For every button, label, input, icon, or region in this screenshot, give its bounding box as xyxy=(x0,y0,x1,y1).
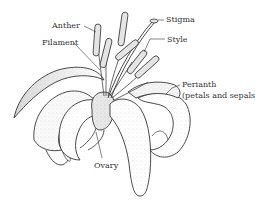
petal-center-drooping xyxy=(110,99,151,196)
flower-drawing xyxy=(0,0,255,220)
label-filament: Filament xyxy=(42,38,78,47)
label-anther: Anther xyxy=(52,21,80,30)
anther-leader xyxy=(84,26,96,32)
stigma xyxy=(150,19,158,23)
lily-flower-diagram: Anther Filament Stigma Style Perianth (p… xyxy=(0,0,255,220)
label-perianth: Perianth xyxy=(182,80,216,89)
ovary-leader xyxy=(96,132,102,158)
label-perianth-detail: (petals and sepals) xyxy=(182,91,255,100)
label-ovary: Ovary xyxy=(94,161,118,170)
style-leader xyxy=(144,39,165,52)
label-style: Style xyxy=(167,35,188,44)
label-stigma: Stigma xyxy=(166,15,195,24)
